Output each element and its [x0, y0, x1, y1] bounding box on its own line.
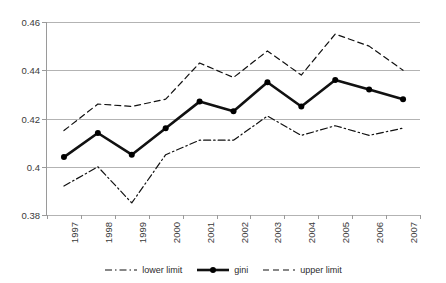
data-point-marker [366, 87, 372, 93]
series-line-upper-limit [64, 34, 403, 131]
x-axis-tick-mark [284, 215, 285, 219]
x-axis-tick-label: 2007 [408, 222, 419, 243]
x-axis-tick-label: 2000 [171, 222, 182, 243]
data-point-marker [95, 130, 101, 136]
legend-swatch-icon [104, 265, 138, 275]
data-point-marker [298, 103, 304, 109]
x-axis-tick-label: 2005 [340, 222, 351, 243]
x-axis-tick-label: 1997 [69, 222, 80, 243]
x-axis-tick-mark [386, 215, 387, 219]
x-axis-tick-mark [81, 215, 82, 219]
chart-legend: lower limitginiupper limit [0, 262, 446, 278]
x-axis-tick-label: 2001 [205, 222, 216, 243]
x-axis-tick-mark [47, 215, 48, 219]
x-axis-tick-label: 2006 [374, 222, 385, 243]
legend-item-lower-limit[interactable]: lower limit [104, 265, 182, 275]
x-axis-tick-mark [183, 215, 184, 219]
data-point-marker [61, 154, 67, 160]
legend-swatch-icon [262, 265, 296, 275]
x-axis-tick-label: 2002 [239, 222, 250, 243]
x-axis-tick-mark [217, 215, 218, 219]
data-point-marker [129, 152, 135, 158]
series-line-lower-limit [64, 116, 403, 203]
series-line-gini [64, 80, 403, 157]
legend-item-label: lower limit [142, 265, 182, 275]
gini-confidence-interval-chart: 0.380.40.420.440.46 19971998199920002001… [0, 0, 446, 283]
data-point-marker [197, 99, 203, 105]
x-axis-tick-mark [250, 215, 251, 219]
x-axis-tick-mark [115, 215, 116, 219]
legend-swatch-icon [196, 265, 230, 275]
legend-item-label: upper limit [300, 265, 342, 275]
x-axis-tick-mark [318, 215, 319, 219]
data-point-marker [400, 96, 406, 102]
x-axis-tick-mark [352, 215, 353, 219]
data-point-marker [264, 79, 270, 85]
x-axis-tick-mark [149, 215, 150, 219]
x-axis-tick-label: 1998 [103, 222, 114, 243]
data-point-marker [332, 77, 338, 83]
x-axis-tick-label: 1999 [137, 222, 148, 243]
legend-item-label: gini [234, 265, 248, 275]
x-axis-tick-label: 2003 [272, 222, 283, 243]
legend-item-upper-limit[interactable]: upper limit [262, 265, 342, 275]
x-axis-tick-mark [420, 215, 421, 219]
data-point-marker [163, 125, 169, 131]
x-axis-tick-label: 2004 [306, 222, 317, 243]
legend-item-gini[interactable]: gini [196, 265, 248, 275]
data-point-marker [231, 108, 237, 114]
